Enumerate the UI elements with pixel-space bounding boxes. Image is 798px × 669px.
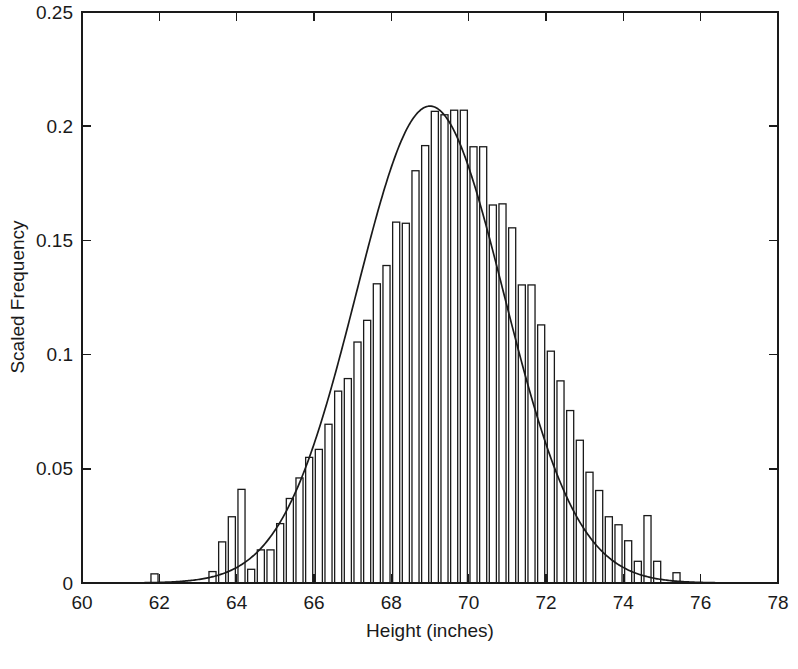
histogram-bar [325, 424, 332, 583]
normal-fit-curve [97, 106, 723, 583]
histogram-bar [431, 111, 438, 583]
histogram-bar [451, 110, 458, 583]
histogram-bar [257, 550, 264, 583]
histogram-bar [383, 266, 390, 583]
histogram-bar [441, 115, 448, 583]
histogram-bar [228, 517, 235, 583]
histogram-bar [518, 285, 525, 583]
y-tick-label: 0.25 [36, 2, 73, 23]
histogram-bar [422, 146, 429, 583]
histogram-bar [344, 379, 351, 583]
y-tick-label: 0.1 [47, 344, 73, 365]
y-tick-label: 0.2 [47, 116, 73, 137]
axes-box [82, 12, 778, 583]
plot-canvas: 60626466687072747678 00.050.10.150.20.25… [0, 0, 798, 669]
histogram-bar [354, 342, 361, 583]
histogram-bar [596, 491, 603, 584]
histogram-figure: 60626466687072747678 00.050.10.150.20.25… [0, 0, 798, 669]
histogram-bar [625, 541, 632, 583]
histogram-bar [315, 449, 322, 583]
histogram-bar [470, 147, 477, 583]
x-tick-label: 68 [381, 592, 402, 613]
histogram-bar [296, 478, 303, 583]
histogram-bar [460, 110, 467, 583]
histogram-bar [219, 542, 226, 583]
histogram-bar [499, 204, 506, 583]
histogram-bar [267, 550, 274, 583]
histogram-bar [151, 574, 158, 583]
y-tick-label: 0.15 [36, 230, 73, 251]
x-tick-label: 70 [458, 592, 479, 613]
x-tick-label: 72 [535, 592, 556, 613]
histogram-bars [151, 110, 680, 583]
x-tick-label: 78 [767, 592, 788, 613]
y-tick-label: 0 [62, 573, 73, 594]
histogram-bar [509, 228, 516, 583]
histogram-bar [586, 472, 593, 583]
histogram-bar [335, 391, 342, 583]
x-axis-title: Height (inches) [366, 620, 494, 641]
histogram-bar [528, 285, 535, 583]
x-tick-label: 76 [690, 592, 711, 613]
y-tick-label: 0.05 [36, 458, 73, 479]
histogram-bar [644, 516, 651, 583]
histogram-bar [615, 525, 622, 583]
x-axis-ticks: 60626466687072747678 [71, 12, 788, 613]
histogram-bar [238, 489, 245, 583]
histogram-bar [393, 222, 400, 583]
histogram-bar [286, 498, 293, 583]
histogram-bar [364, 320, 371, 583]
histogram-bar [605, 517, 612, 583]
histogram-bar [547, 351, 554, 583]
x-tick-label: 66 [303, 592, 324, 613]
histogram-bar [576, 440, 583, 583]
x-tick-label: 74 [613, 592, 635, 613]
histogram-bar [412, 171, 419, 583]
histogram-bar [248, 569, 255, 583]
x-tick-label: 64 [226, 592, 248, 613]
histogram-bar [306, 457, 313, 583]
x-tick-label: 62 [149, 592, 170, 613]
axes-frame [82, 12, 778, 583]
histogram-bar [538, 325, 545, 583]
histogram-bar [373, 284, 380, 583]
histogram-bar [402, 223, 409, 583]
x-tick-label: 60 [71, 592, 92, 613]
y-axis-title: Scaled Frequency [7, 220, 28, 374]
histogram-bar [277, 524, 284, 583]
histogram-bar [567, 411, 574, 583]
